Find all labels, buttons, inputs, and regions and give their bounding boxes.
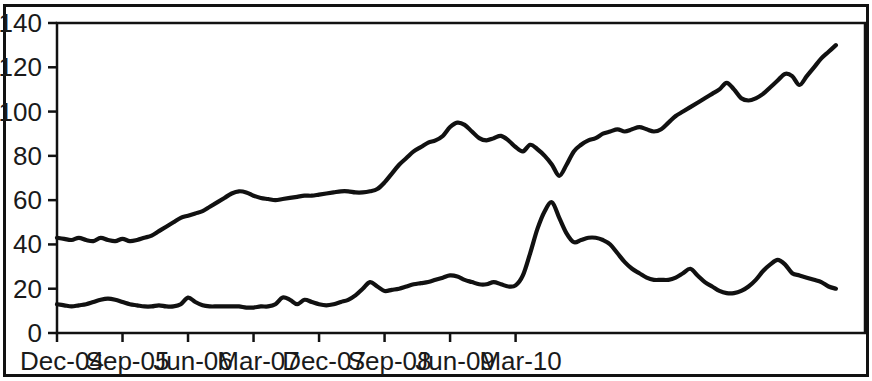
y-axis-tick-label: 0 — [28, 318, 42, 348]
y-axis-tick-label: 40 — [13, 229, 42, 259]
plot-area-border — [57, 23, 865, 333]
chart-figure: 020406080100120140 Dec-04Sep-05Jun-06Mar… — [0, 0, 872, 381]
x-axis-tick-label: Mar-10 — [479, 346, 561, 376]
y-axis-tick-label: 140 — [0, 8, 42, 38]
y-axis-tick-labels: 020406080100120140 — [0, 8, 42, 348]
y-axis-tick-label: 20 — [13, 274, 42, 304]
x-axis-ticks — [57, 333, 516, 342]
y-axis-tick-label: 100 — [0, 97, 42, 127]
y-axis-tick-label: 80 — [13, 141, 42, 171]
x-axis-tick-labels: Dec-04Sep-05Jun-06Mar-07Dec-07Sep-08Jun-… — [20, 346, 562, 376]
y-axis-tick-label: 120 — [0, 52, 42, 82]
y-axis-ticks — [48, 23, 57, 333]
line-chart: 020406080100120140 Dec-04Sep-05Jun-06Mar… — [0, 0, 872, 381]
y-axis-tick-label: 60 — [13, 185, 42, 215]
